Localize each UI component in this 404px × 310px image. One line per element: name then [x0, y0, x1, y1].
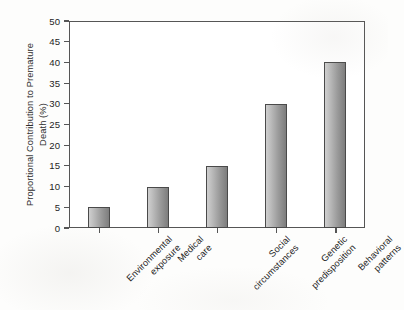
y-axis-tick-label: 40 [49, 56, 60, 67]
y-axis-tick-label: 5 [55, 201, 60, 212]
x-axis-label: Behavioralpatterns [356, 234, 404, 282]
x-axis-tick-mark [335, 228, 336, 233]
y-axis-tick-label: 35 [49, 77, 60, 88]
x-axis-labels: EnvironmentalexposureMedicalcareSocialci… [69, 234, 365, 310]
y-axis-tick-label: 30 [49, 98, 60, 109]
x-axis-tick-mark [276, 228, 277, 233]
bar [265, 104, 287, 228]
x-axis-label: Socialcircumstances [243, 234, 302, 293]
x-axis-label: Medicalcare [175, 234, 215, 274]
y-axis-tick-label: 25 [49, 119, 60, 130]
y-axis-tick-label: 0 [55, 222, 60, 233]
bar [147, 187, 169, 228]
y-axis-tick-label: 45 [49, 36, 60, 47]
x-axis-tick-mark [217, 228, 218, 233]
bar-series [69, 21, 365, 228]
x-axis-label: Environmentalexposure [124, 234, 183, 293]
bar [206, 166, 228, 228]
x-axis-tick-mark [158, 228, 159, 233]
y-axis-tick-label: 10 [49, 181, 60, 192]
y-axis: 05101520253035404550 [0, 21, 69, 228]
bar [324, 62, 346, 228]
x-axis-label: Geneticpredisposition [301, 234, 359, 292]
y-axis-tick-label: 20 [49, 139, 60, 150]
bar [88, 207, 110, 228]
y-axis-tick-label: 50 [49, 15, 60, 26]
x-axis-tick-mark [99, 228, 100, 233]
y-axis-tick-label: 15 [49, 160, 60, 171]
